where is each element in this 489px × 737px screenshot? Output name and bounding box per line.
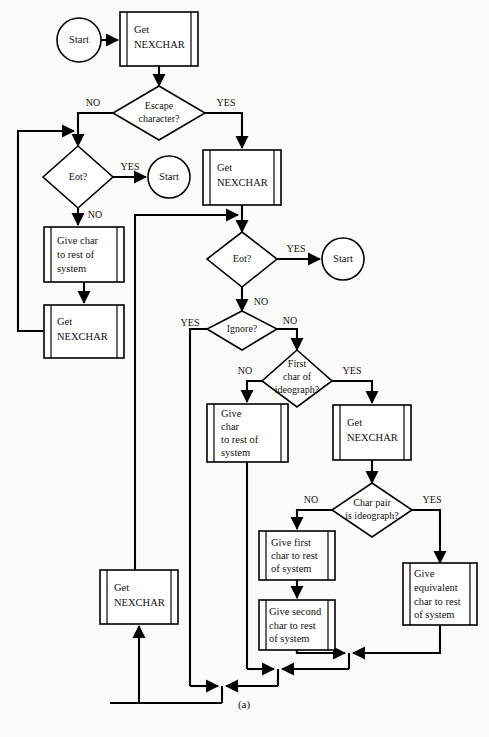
node-give-equivalent-line4: of system [414, 609, 455, 620]
edge-escape-yes [205, 113, 242, 148]
node-get-nexchar-2: Get NEXCHAR [203, 150, 281, 205]
edge-ignore-yes [190, 329, 207, 686]
node-give-equivalent-line2: equivalent [414, 582, 458, 593]
edge-charpair-no [297, 510, 332, 529]
node-give-equivalent-line1: Give [414, 568, 435, 579]
node-give-char-1-line2: to rest of [57, 249, 95, 260]
node-start-2: Start [148, 156, 190, 198]
node-get-nexchar-2-line2: NEXCHAR [217, 177, 268, 188]
node-give-char-2-line1: Give [221, 408, 242, 419]
edge-label-escape-no: NO [86, 97, 100, 108]
node-first-char-line1: First [288, 358, 307, 369]
node-give-second-char-line3: of system [269, 633, 310, 644]
edge-charpair-yes [412, 510, 440, 563]
node-start-3: Start [322, 238, 364, 280]
node-ignore: Ignore? YES NO [181, 311, 298, 350]
edge-label-eot2-yes: YES [287, 243, 306, 254]
node-start-2-label: Start [159, 171, 179, 182]
connectors [18, 40, 440, 703]
edge-escape-no [78, 113, 113, 146]
node-give-char-1-line3: system [57, 263, 86, 274]
flowchart-canvas: Start Get NEXCHAR Escape character? NO Y… [0, 0, 489, 737]
merge-line-3-right [353, 625, 440, 653]
node-start-3-label: Start [333, 253, 353, 264]
node-give-first-char-line2: char to rest [271, 550, 318, 561]
node-eot-2-label: Eot? [233, 253, 252, 264]
node-give-second-char-line1: Give second [269, 606, 322, 617]
node-give-char-2-line4: system [221, 447, 250, 458]
figure-caption: (a) [238, 698, 251, 711]
node-first-char-of-ideograph: First char of ideograph? NO YES [238, 350, 362, 407]
edge-firstchar-no [247, 381, 262, 402]
edge-label-charpair-yes: YES [423, 494, 442, 505]
node-give-equivalent-char: Give equivalent char to rest of system [403, 563, 477, 625]
node-get-nexchar-1-line2: NEXCHAR [134, 39, 185, 50]
node-first-char-line3: ideograph? [275, 384, 320, 395]
flowchart-figure: Start Get NEXCHAR Escape character? NO Y… [0, 0, 489, 737]
node-char-pair-line2: is ideograph? [345, 510, 399, 521]
node-get-nexchar-2-line1: Get [217, 162, 232, 173]
node-eot-2: Eot? YES NO [207, 232, 305, 307]
node-eot-1-label: Eot? [69, 171, 88, 182]
edge-ignore-no [277, 329, 297, 350]
node-get-nexchar-4-line2: NEXCHAR [347, 432, 398, 443]
node-get-nexchar-1: Get NEXCHAR [120, 12, 198, 66]
edge-label-eot1-yes: YES [121, 161, 140, 172]
edge-label-firstchar-no: NO [238, 365, 252, 376]
node-give-second-char-line2: char to rest [269, 620, 316, 631]
node-give-char-1: Give char to rest of system [44, 227, 124, 282]
edge-label-eot2-no: NO [254, 296, 268, 307]
node-get-nexchar-5-line2: NEXCHAR [114, 597, 165, 608]
node-give-equivalent-line3: char to rest [414, 596, 461, 607]
node-escape-character-line2: character? [138, 113, 180, 124]
node-give-char-2-line2: char [221, 421, 240, 432]
edge-label-ignore-yes: YES [181, 317, 200, 328]
node-give-second-char: Give second char to rest of system [259, 600, 335, 650]
node-ignore-label: Ignore? [227, 323, 258, 334]
node-start-1-label: Start [69, 34, 89, 45]
node-give-first-char-line1: Give first [271, 537, 311, 548]
node-char-pair-line1: Char pair [353, 497, 391, 508]
node-escape-character-line1: Escape [145, 100, 174, 111]
node-first-char-line2: char of [283, 371, 312, 382]
node-get-nexchar-4: Get NEXCHAR [333, 405, 411, 460]
edge-label-ignore-no: NO [283, 315, 297, 326]
node-give-char-2: Give char to rest of system [207, 404, 288, 462]
node-get-nexchar-3-line2: NEXCHAR [57, 331, 108, 342]
node-start-1: Start [57, 18, 101, 62]
edge-label-charpair-no: NO [304, 494, 318, 505]
node-give-char-2-line3: to rest of [221, 434, 259, 445]
node-get-nexchar-5: Get NEXCHAR [100, 570, 178, 624]
edge-firstchar-yes [332, 381, 372, 403]
edge-label-eot1-no: NO [88, 209, 102, 220]
node-get-nexchar-5-line1: Get [114, 582, 129, 593]
edge-label-firstchar-yes: YES [343, 365, 362, 376]
edge-label-escape-yes: YES [217, 97, 236, 108]
node-give-first-char-line3: of system [271, 563, 312, 574]
node-get-nexchar-3-line1: Get [57, 316, 72, 327]
node-give-first-char: Give first char to rest of system [259, 531, 335, 580]
node-eot-1: Eot? YES NO [43, 146, 139, 220]
node-get-nexchar-4-line1: Get [347, 417, 362, 428]
node-get-nexchar-1-line1: Get [134, 24, 149, 35]
edge-bottom-rail-to-getnexchar5 [139, 626, 222, 703]
node-get-nexchar-3: Get NEXCHAR [44, 305, 124, 358]
node-give-char-1-line1: Give char [57, 235, 99, 246]
